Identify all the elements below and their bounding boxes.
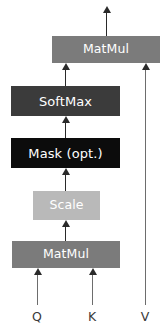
node-softmax[interactable]: SoftMax	[11, 86, 120, 116]
arrowhead-matmul-bottom-to-scale	[62, 220, 70, 227]
arrowhead-scale-to-mask	[62, 168, 70, 175]
edge-matmul-top-to-output	[106, 12, 107, 36]
edge-matmul-bottom-to-scale	[65, 226, 66, 242]
edge-q-to-matmul-bottom	[37, 274, 38, 305]
node-mask-label: Mask (opt.)	[28, 147, 102, 160]
arrowhead-mask-to-softmax	[62, 116, 70, 123]
input-label-k: K	[82, 311, 102, 324]
input-label-q: Q	[27, 311, 47, 324]
node-softmax-label: SoftMax	[39, 95, 92, 108]
arrowhead-output	[103, 6, 111, 13]
arrowhead-softmax-to-matmul-top	[62, 63, 70, 70]
node-mask[interactable]: Mask (opt.)	[11, 138, 120, 168]
node-matmul-top-label: MatMul	[83, 43, 129, 56]
arrowhead-k-to-matmul-bottom	[89, 268, 97, 275]
node-matmul-top[interactable]: MatMul	[52, 36, 160, 63]
node-scale[interactable]: Scale	[33, 191, 100, 220]
input-label-v: V	[135, 311, 155, 324]
edge-v-to-matmul-top	[145, 69, 146, 305]
edge-softmax-to-matmul-top	[65, 69, 66, 86]
edge-scale-to-mask	[65, 174, 66, 191]
arrowhead-v-to-matmul-top	[142, 63, 150, 70]
edge-k-to-matmul-bottom	[92, 274, 93, 305]
node-matmul-bottom-label: MatMul	[43, 248, 89, 261]
arrowhead-q-to-matmul-bottom	[34, 268, 42, 275]
node-scale-label: Scale	[49, 199, 83, 212]
edge-mask-to-softmax	[65, 122, 66, 138]
attention-diagram: MatMul SoftMax Mask (opt.) Scale MatMul …	[0, 0, 168, 333]
node-matmul-bottom[interactable]: MatMul	[12, 241, 120, 268]
